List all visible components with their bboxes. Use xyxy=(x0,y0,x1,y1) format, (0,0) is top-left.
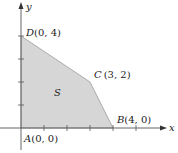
vertex-label-c: C(3, 2) xyxy=(94,69,131,80)
x-axis-arrow-icon xyxy=(160,126,167,131)
y-axis-label: y xyxy=(25,1,32,12)
vertex-a-coords: (0, 0) xyxy=(31,133,58,144)
x-axis-label: x xyxy=(169,122,175,133)
feasible-region-diagram: y x S D(0, 4) C(3, 2) B(4, 0) A(0, 0) xyxy=(0,0,178,153)
vertex-c-name: C xyxy=(94,69,102,80)
vertex-a-name: A xyxy=(23,133,31,144)
vertex-label-d: D(0, 4) xyxy=(25,27,61,38)
region-label: S xyxy=(54,87,61,98)
vertex-b-name: B xyxy=(116,114,124,125)
region-s xyxy=(21,36,113,128)
vertex-label-b: B(4, 0) xyxy=(116,114,151,125)
vertex-c-coords: (3, 2) xyxy=(104,69,131,80)
vertex-label-a: A(0, 0) xyxy=(23,133,58,144)
vertex-d-coords: (0, 4) xyxy=(34,27,61,38)
vertex-d-name: D xyxy=(25,27,34,38)
y-axis-arrow-icon xyxy=(19,2,24,9)
vertex-b-coords: (4, 0) xyxy=(124,114,151,125)
